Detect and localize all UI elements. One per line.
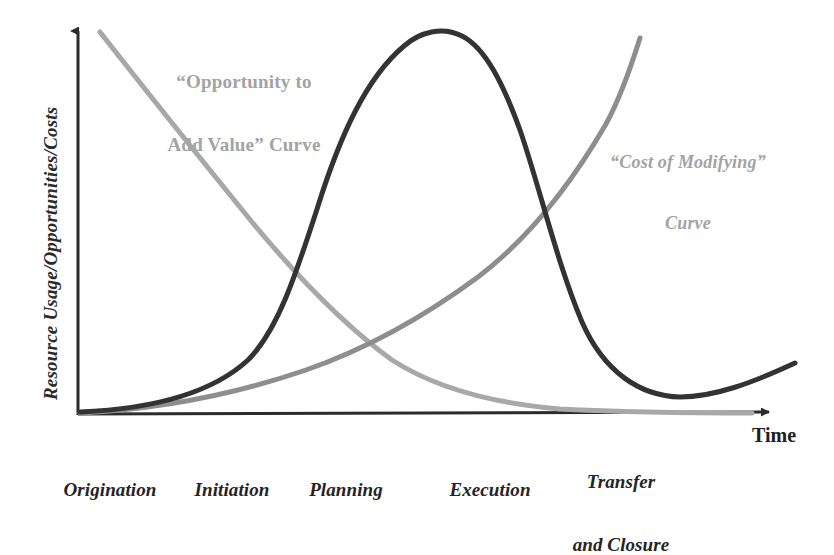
- x-label-planning: Planning: [288, 436, 404, 542]
- x-label-initiation-text: Initiation: [172, 479, 292, 500]
- x-label-transfer-line2: and Closure: [554, 534, 688, 555]
- annotation-opportunity-line2: Add Value” Curve: [144, 134, 344, 155]
- x-label-planning-text: Planning: [288, 479, 404, 500]
- x-label-transfer-and-closure: Transfer and Closure: [554, 428, 688, 555]
- x-label-execution-text: Execution: [428, 479, 552, 500]
- annotation-opportunity-curve: “Opportunity to Add Value” Curve: [144, 28, 344, 198]
- x-label-transfer-line1: Transfer: [554, 471, 688, 492]
- annotation-cost-line1: “Cost of Modifying”: [588, 152, 788, 172]
- annotation-cost-curve: “Cost of Modifying” Curve: [588, 112, 788, 273]
- annotation-opportunity-line1: “Opportunity to: [144, 71, 344, 92]
- x-label-origination-text: Origination: [40, 479, 180, 500]
- x-label-origination: Origination: [40, 436, 180, 542]
- x-axis-title: Time: [724, 424, 824, 446]
- x-label-execution: Execution: [428, 436, 552, 542]
- y-axis-title: Resource Usage/Opportunities/Costs: [40, 20, 61, 400]
- annotation-cost-line2: Curve: [588, 213, 788, 233]
- x-label-initiation: Initiation: [172, 436, 292, 542]
